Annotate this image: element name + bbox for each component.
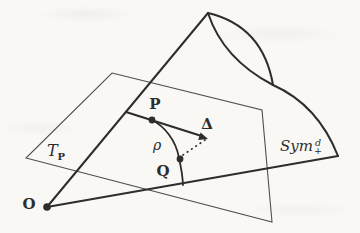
label-point-p: P bbox=[149, 97, 160, 112]
projection-dotted-line bbox=[183, 140, 205, 155]
label-tangent-space: TP bbox=[47, 143, 65, 159]
cone-bottom-edge bbox=[47, 156, 338, 207]
label-origin: O bbox=[22, 197, 35, 212]
manifold-name: Sym bbox=[280, 139, 313, 154]
point-q-dot bbox=[177, 156, 184, 163]
cone-fold-upper-curve bbox=[208, 13, 273, 85]
manifold-tangent-space-diagram: P Δ ρ Q O TP Symd+ bbox=[0, 0, 360, 233]
manifold-scripts: d+ bbox=[314, 139, 322, 155]
label-tangent-vector: Δ bbox=[201, 117, 213, 132]
tangent-space-subscript: P bbox=[58, 151, 66, 162]
point-p-dot bbox=[149, 117, 156, 124]
diagram-canvas bbox=[0, 0, 360, 233]
tangent-vector-arrow-shaft bbox=[126, 112, 200, 136]
manifold-subscript: + bbox=[314, 147, 322, 155]
origin-dot bbox=[43, 203, 51, 211]
label-manifold: Symd+ bbox=[280, 138, 322, 154]
label-geodesic-rho: ρ bbox=[153, 138, 161, 152]
cone-left-edge bbox=[47, 13, 208, 207]
tangent-vector-arrowhead bbox=[198, 133, 208, 140]
cone-fold-lower-curve bbox=[208, 13, 273, 85]
tangent-space-symbol: T bbox=[47, 141, 58, 160]
label-point-q: Q bbox=[156, 164, 169, 179]
